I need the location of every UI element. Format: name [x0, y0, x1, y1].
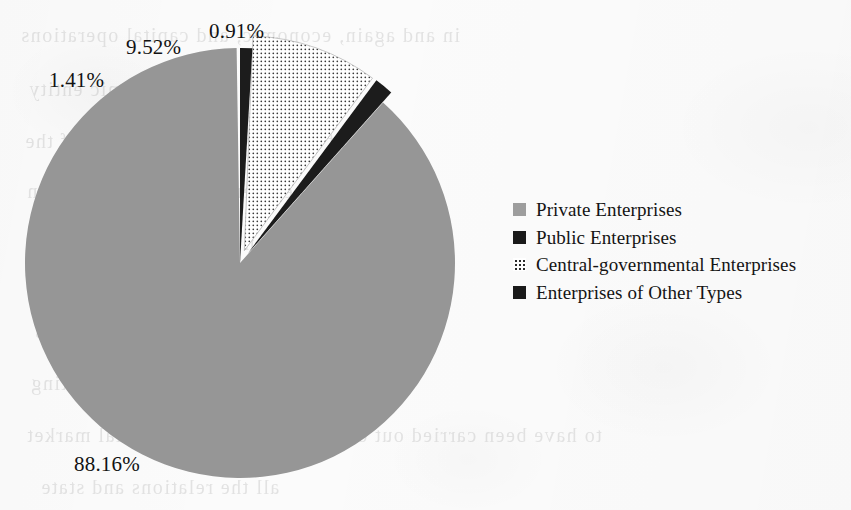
pie-label-enterprises-other-types: 0.91% — [209, 19, 264, 44]
legend-item-label: Public Enterprises — [536, 228, 677, 247]
legend-item-label: Private Enterprises — [536, 200, 682, 219]
legend-swatch-solid-black-icon — [513, 286, 526, 299]
legend-item[interactable]: Central-governmental Enterprises — [513, 251, 796, 279]
pie-label-private-enterprises: 88.16% — [74, 452, 140, 477]
chart-legend: Private EnterprisesPublic EnterprisesCen… — [513, 196, 796, 306]
pie-chart: 0.91% 9.52% 1.41% 88.16% — [0, 0, 500, 510]
legend-item[interactable]: Enterprises of Other Types — [513, 279, 796, 307]
legend-swatch-solid-gray-icon — [513, 203, 526, 216]
legend-item[interactable]: Public Enterprises — [513, 224, 796, 252]
pie-label-public-enterprises: 1.41% — [49, 68, 104, 93]
legend-item[interactable]: Private Enterprises — [513, 196, 796, 224]
legend-item-label: Enterprises of Other Types — [536, 283, 742, 302]
pie-label-central-governmental-enterprises: 9.52% — [126, 35, 181, 60]
legend-item-label: Central-governmental Enterprises — [536, 255, 796, 274]
legend-swatch-solid-black-icon — [513, 231, 526, 244]
scanned-page: in and again, economic, and capital oper… — [0, 0, 851, 510]
legend-swatch-dotted-icon — [513, 258, 526, 271]
